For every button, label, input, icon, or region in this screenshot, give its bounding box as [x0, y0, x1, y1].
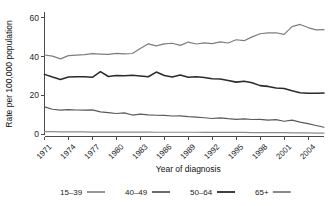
y-tick-label-60: 60 — [30, 13, 40, 23]
legend-label-15-39: 15–39 — [60, 188, 83, 197]
y-axis-title: Rate per 100,000 population — [4, 20, 14, 128]
legend-label-40-49: 40–49 — [125, 188, 148, 197]
x-tick-label-1998: 1998 — [250, 142, 269, 161]
series-line-15-39 — [45, 132, 325, 133]
x-tick-label-1989: 1989 — [178, 142, 197, 161]
series-line-50-64 — [45, 72, 325, 94]
x-tick-label-2004: 2004 — [298, 142, 317, 161]
y-tick-label-40: 40 — [30, 52, 40, 62]
series-line-65+ — [45, 24, 325, 58]
x-tick-label-1995: 1995 — [226, 142, 245, 161]
x-axis-title: Year of diagnosis — [156, 164, 221, 174]
x-tick-label-1974: 1974 — [59, 142, 78, 161]
line-chart: 0204060197119741977198019831986198919921… — [0, 0, 329, 206]
y-tick-label-20: 20 — [30, 90, 40, 100]
x-tick-label-2001: 2001 — [274, 142, 293, 161]
chart-canvas: 0204060197119741977198019831986198919921… — [0, 0, 329, 206]
y-tick-label-0: 0 — [34, 129, 39, 139]
legend-label-50-64: 50–64 — [190, 188, 213, 197]
x-tick-label-1983: 1983 — [131, 142, 150, 161]
x-tick-label-1971: 1971 — [35, 142, 54, 161]
series-line-40-49 — [45, 107, 325, 127]
legend-label-65+: 65+ — [255, 188, 269, 197]
x-tick-label-1977: 1977 — [83, 142, 102, 161]
x-tick-label-1986: 1986 — [154, 142, 173, 161]
x-tick-label-1980: 1980 — [107, 142, 126, 161]
x-tick-label-1992: 1992 — [202, 142, 221, 161]
